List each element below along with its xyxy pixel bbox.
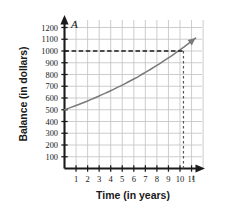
y-axis-tick-label: 1000 <box>41 47 58 56</box>
x-axis-tick-label: 2 <box>85 174 89 184</box>
chart-background <box>0 0 252 214</box>
x-axis-tick-label: 9 <box>166 174 170 184</box>
y-axis-tick-label: 200 <box>45 141 58 150</box>
y-axis-tick-label: 100 <box>45 153 58 162</box>
x-axis-tick-label: 3 <box>97 174 101 184</box>
x-axis-tick-label: 1 <box>74 174 78 184</box>
chart-figure: 100200300400500600700800900100011001200 … <box>0 0 252 214</box>
y-axis-tick-label: 800 <box>45 71 58 80</box>
y-axis-tick-label: 900 <box>45 59 58 68</box>
x-axis-tick-label: 4 <box>109 174 114 184</box>
y-axis-variable-label: A <box>70 18 78 30</box>
x-axis-tick-label: 7 <box>143 174 148 184</box>
x-axis-tick-label: 10 <box>176 174 185 184</box>
y-axis-tick-label: 500 <box>45 106 58 115</box>
balance-vs-time-chart: 100200300400500600700800900100011001200 … <box>0 0 252 214</box>
x-axis-tick-label: 8 <box>155 174 159 184</box>
y-axis-tick-label: 1100 <box>42 35 58 44</box>
y-axis-tick-label: 700 <box>45 82 58 91</box>
x-axis-tick-label: 6 <box>132 174 137 184</box>
y-axis-tick-label: 300 <box>45 129 58 138</box>
x-axis-title: Time (in years) <box>58 189 208 201</box>
y-axis-title: Balance (in dollars) <box>17 19 29 169</box>
y-axis-tick-label: 600 <box>45 94 58 103</box>
y-axis-tick-label: 1200 <box>41 24 58 33</box>
y-axis-tick-label: 400 <box>45 118 58 127</box>
x-axis-tick-label: 5 <box>120 174 124 184</box>
